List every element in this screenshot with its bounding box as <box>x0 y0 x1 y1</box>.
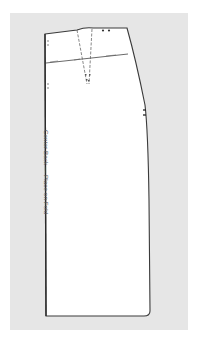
piece-outline <box>45 28 150 316</box>
skirt-pattern-piece <box>0 0 198 343</box>
center-back-label: Center Back — Place on Fold <box>43 130 50 214</box>
